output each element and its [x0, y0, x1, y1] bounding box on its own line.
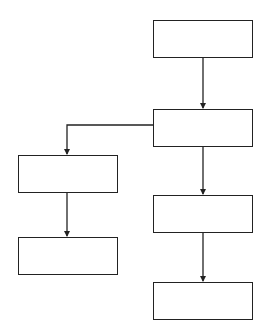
flowchart-node-4 — [18, 237, 118, 275]
flowchart-node-3 — [18, 155, 118, 193]
flowchart-node-5 — [153, 195, 253, 233]
flowchart-node-1 — [153, 20, 253, 58]
flowchart-node-2 — [153, 109, 253, 147]
flowchart-node-6 — [153, 282, 253, 320]
edge-n2-n3 — [67, 125, 153, 154]
flowchart-canvas — [0, 0, 272, 336]
